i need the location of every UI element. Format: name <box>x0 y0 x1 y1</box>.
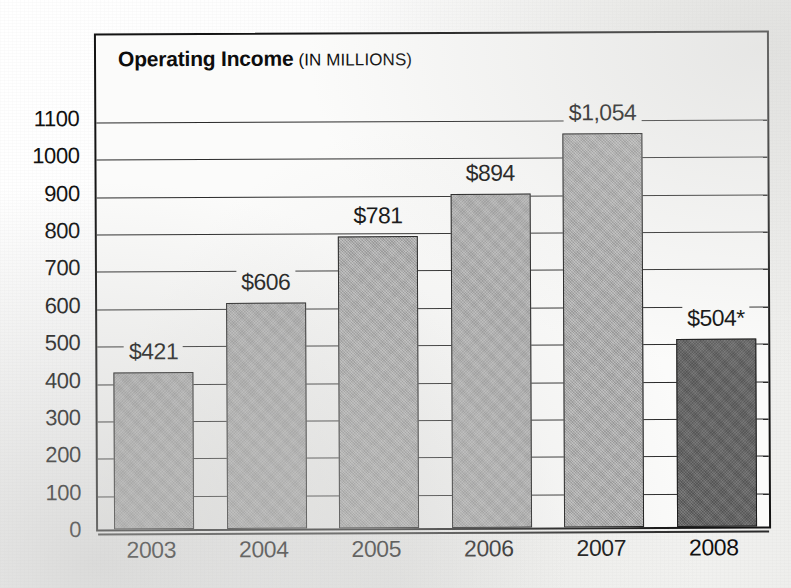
x-tick-label-2004: 2004 <box>239 536 289 563</box>
bar-group-2003: $421 <box>112 31 194 529</box>
y-tick-label-900: 900 <box>44 181 80 207</box>
bar-group-2007: $1,054 <box>562 29 644 527</box>
y-tick-label-300: 300 <box>45 405 81 431</box>
bar-value-label-2003: $421 <box>124 338 183 365</box>
bar-2003[interactable] <box>114 372 195 530</box>
y-tick-label-600: 600 <box>45 293 81 319</box>
chart-plot-frame: Operating Income(IN MILLIONS) $421$606$7… <box>94 31 771 532</box>
y-tick-label-500: 500 <box>45 330 81 356</box>
bars-container: $421$606$781$894$1,054$504* <box>96 33 769 530</box>
y-tick-label-800: 800 <box>44 218 80 244</box>
bar-2004[interactable] <box>226 302 307 529</box>
scanned-page: 010020030040050060070080090010001100 Ope… <box>0 0 791 588</box>
y-tick-label-200: 200 <box>45 442 81 468</box>
bar-value-label-2006: $894 <box>461 160 520 187</box>
bar-group-2004: $606 <box>225 31 307 529</box>
x-tick-label-2007: 2007 <box>576 535 626 562</box>
bar-value-label-2007: $1,054 <box>564 99 641 126</box>
y-tick-label-1000: 1000 <box>32 143 79 169</box>
y-tick-label-100: 100 <box>45 480 81 506</box>
x-tick-label-2006: 2006 <box>464 535 514 562</box>
y-axis: 010020030040050060070080090010001100 <box>0 32 90 530</box>
bar-value-label-2004: $606 <box>236 268 295 295</box>
bar-group-2008: $504* <box>675 29 757 527</box>
bar-group-2005: $781 <box>337 30 419 528</box>
x-tick-label-2008: 2008 <box>689 534 739 561</box>
bar-2007[interactable] <box>563 133 645 527</box>
x-tick-label-2005: 2005 <box>351 536 401 563</box>
x-tick-label-2003: 2003 <box>126 537 176 564</box>
bar-value-label-2005: $781 <box>348 202 407 229</box>
bar-2005[interactable] <box>338 236 419 528</box>
x-axis: 200320042005200620072008 <box>95 530 770 575</box>
y-tick-label-1100: 1100 <box>34 106 80 132</box>
bar-2006[interactable] <box>450 194 531 528</box>
bar-value-label-2008: $504* <box>682 304 750 331</box>
y-tick-label-700: 700 <box>44 255 80 281</box>
bar-2008[interactable] <box>676 338 757 527</box>
bar-group-2006: $894 <box>450 30 532 528</box>
y-tick-label-0: 0 <box>69 517 81 543</box>
y-tick-label-400: 400 <box>45 368 81 394</box>
